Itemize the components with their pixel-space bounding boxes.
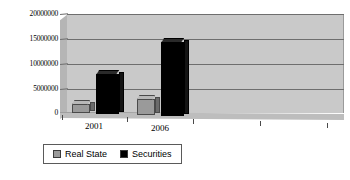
x-axis-tick bbox=[193, 119, 194, 124]
y-axis-tick-label: 5000000 bbox=[33, 85, 58, 93]
gridline-15000000 bbox=[67, 39, 344, 40]
legend-item-real-state: Real State bbox=[53, 150, 107, 159]
legend-item-securities: Securities bbox=[120, 150, 172, 159]
gridline-10000000 bbox=[67, 64, 344, 65]
bar-real-state-2001 bbox=[72, 104, 90, 113]
y-axis-tick-label: 0 bbox=[54, 109, 58, 117]
y-axis-tick-label: 15000000 bbox=[30, 35, 58, 43]
y-axis-tick-label: 10000000 bbox=[30, 60, 58, 68]
plot-area bbox=[60, 8, 344, 120]
gridline-20000000 bbox=[67, 14, 344, 15]
bar-securities-2006 bbox=[161, 42, 184, 116]
legend-swatch-icon bbox=[120, 150, 128, 158]
x-axis-tick bbox=[327, 123, 328, 128]
bar-face bbox=[137, 99, 155, 115]
bar-securities-2001 bbox=[96, 74, 119, 114]
bar-side-face bbox=[155, 97, 160, 113]
bar-face bbox=[72, 104, 90, 113]
bar-top-face bbox=[72, 100, 90, 105]
bar-side-face bbox=[119, 72, 124, 112]
chart-legend: Real State Securities bbox=[43, 144, 182, 164]
bar-top-face bbox=[161, 38, 184, 43]
bar-real-state-2006 bbox=[137, 99, 155, 115]
legend-swatch-icon bbox=[53, 150, 61, 158]
bar-top-face bbox=[96, 70, 119, 75]
bar-chart: 20000000 15000000 10000000 5000000 0 bbox=[0, 0, 350, 180]
bar-side-face bbox=[90, 102, 95, 111]
x-axis-label-2006: 2006 bbox=[151, 124, 169, 133]
bar-face bbox=[96, 74, 119, 114]
x-axis-tick bbox=[260, 121, 261, 126]
legend-item-label: Securities bbox=[132, 150, 172, 159]
x-axis-tick bbox=[127, 117, 128, 122]
y-axis-tick-label: 20000000 bbox=[30, 10, 58, 18]
bar-top-face bbox=[137, 95, 155, 100]
bar-face bbox=[161, 42, 184, 116]
x-axis-label-2001: 2001 bbox=[85, 122, 103, 131]
bar-side-face bbox=[184, 40, 189, 114]
x-axis-tick bbox=[62, 115, 63, 120]
legend-item-label: Real State bbox=[65, 150, 107, 159]
